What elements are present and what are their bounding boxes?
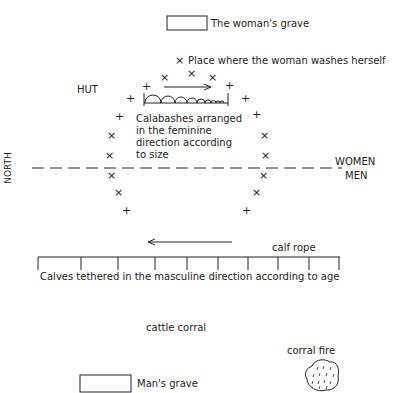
man-grave-box <box>80 375 131 392</box>
hut-wall-marker: + <box>252 109 261 120</box>
corral-fire-label: corral fire <box>287 345 335 357</box>
hut-wall-marker: + <box>242 205 251 216</box>
hut-wall-marker: × <box>105 150 114 161</box>
woman-grave-box <box>167 16 207 30</box>
women-side-label: WOMEN <box>335 156 375 168</box>
washing-place-marker: × <box>175 55 184 66</box>
calabashes-label-3: direction according <box>136 137 232 149</box>
hut-wall-marker: × <box>259 170 268 181</box>
men-side-label: MEN <box>345 170 367 182</box>
calabashes-label-2: in the feminine <box>136 125 212 137</box>
hut-wall-marker: × <box>187 68 196 79</box>
hut-wall-marker: × <box>114 187 123 198</box>
woman-grave-label: The woman's grave <box>211 18 309 30</box>
hut-wall-marker: × <box>252 187 261 198</box>
hut-wall-marker: × <box>107 170 116 181</box>
hut-wall-marker: × <box>261 150 270 161</box>
calves-label: Calves tethered in the masculine directi… <box>40 271 339 283</box>
hut-wall-marker: + <box>122 205 131 216</box>
calabashes-label-4: to size <box>136 149 169 161</box>
calf-rope-label: calf rope <box>272 242 316 254</box>
hut-label: HUT <box>77 84 98 96</box>
washing-place-label: Place where the woman washes herself <box>188 55 386 67</box>
north-label: NORTH <box>2 152 14 184</box>
calabashes-label-1: Calabashes arranged <box>136 113 242 125</box>
hut-wall-marker: + <box>115 111 124 122</box>
man-grave-label: Man's grave <box>137 378 198 390</box>
hut-wall-marker: + <box>225 80 234 91</box>
corral-fire-shape <box>305 360 338 391</box>
cattle-corral-label: cattle corral <box>146 322 206 334</box>
hut-wall-marker: × <box>107 130 116 141</box>
hut-wall-marker: + <box>241 93 250 104</box>
hut-wall-marker: × <box>208 72 217 83</box>
calabashes <box>144 93 228 106</box>
hut-wall-marker: × <box>260 130 269 141</box>
hut-wall-marker: × <box>160 72 169 83</box>
hut-wall-marker: + <box>126 93 135 104</box>
calf-rope <box>38 257 340 270</box>
hut-wall-marker: + <box>142 81 151 92</box>
